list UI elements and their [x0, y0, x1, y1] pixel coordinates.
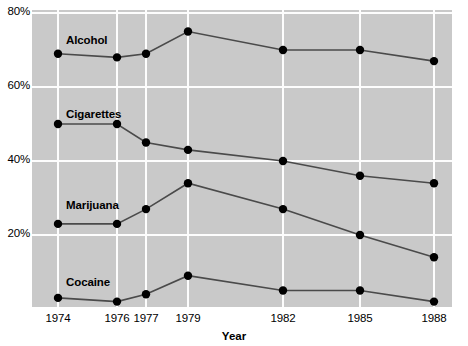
- series-label-cocaine: Cocaine: [66, 276, 110, 288]
- y-axis-tick-label: 80%: [0, 5, 30, 17]
- x-axis-tick-label: 1988: [422, 312, 447, 324]
- gridline-horizontal: [32, 160, 452, 162]
- line-chart: 80%60%40%20% 197419761977197919821985198…: [0, 0, 468, 346]
- series-label-alcohol: Alcohol: [66, 34, 107, 46]
- gridline-vertical: [57, 10, 59, 307]
- x-axis-tick-label: 1977: [134, 312, 159, 324]
- gridline-vertical: [116, 10, 118, 307]
- gridline-horizontal: [32, 12, 452, 14]
- y-axis-tick-label: 20%: [0, 227, 30, 239]
- series-label-cigarettes: Cigarettes: [66, 108, 121, 120]
- x-axis-tick-label: 1979: [176, 312, 201, 324]
- plot-area: [32, 10, 452, 307]
- gridline-horizontal: [32, 86, 452, 88]
- gridline-vertical: [359, 10, 361, 307]
- x-axis-tick-label: 1976: [105, 312, 130, 324]
- x-axis-title: Year: [0, 330, 468, 342]
- gridline-vertical: [433, 10, 435, 307]
- y-axis-tick-label: 60%: [0, 79, 30, 91]
- gridline-vertical: [145, 10, 147, 307]
- x-axis-tick-label: 1974: [46, 312, 71, 324]
- gridline-vertical: [282, 10, 284, 307]
- y-axis-tick-label: 40%: [0, 153, 30, 165]
- series-label-marijuana: Marijuana: [66, 199, 119, 211]
- gridline-horizontal: [32, 234, 452, 236]
- x-axis-tick-label: 1985: [348, 312, 373, 324]
- gridline-vertical: [187, 10, 189, 307]
- x-axis-tick-label: 1982: [271, 312, 296, 324]
